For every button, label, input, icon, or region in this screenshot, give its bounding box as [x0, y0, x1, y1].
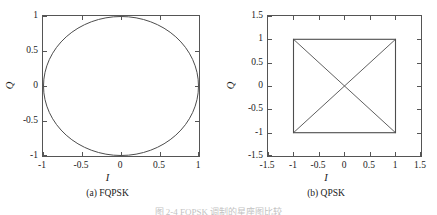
ytick-a-0	[43, 16, 47, 17]
xtick-top-b-3	[344, 16, 345, 20]
xtick-b-6	[420, 152, 421, 156]
xtick-top-b-1	[293, 16, 294, 20]
xticklabel-a-3: 0.5	[153, 160, 165, 170]
xticklabel-b-4: 0.5	[363, 160, 375, 170]
yticklabel-b-4: 0.5	[235, 57, 263, 67]
xticklabel-b-1: -1	[289, 160, 297, 170]
xtick-top-b-5	[395, 16, 396, 20]
panel-qpsk: -1.5 -1 -0.5 0 0.5 1 1.5 1.5 1 0.5 0 -0.…	[215, 0, 437, 202]
ytick-right-b-1	[417, 133, 421, 134]
xaxis-title-a: I	[0, 172, 215, 183]
yticklabel-b-3: 0	[235, 80, 263, 90]
xticklabel-b-2: -0.5	[310, 160, 325, 170]
xtick-a-4	[198, 152, 199, 156]
xticklabel-b-5: 1	[393, 160, 398, 170]
yticklabel-b-5: 1	[235, 33, 263, 43]
ytick-b-0	[268, 155, 272, 156]
xticklabel-a-1: -0.5	[73, 160, 88, 170]
xtick-a-3	[160, 152, 161, 156]
xtick-top-b-4	[370, 16, 371, 20]
fqpsk-circle-trace	[43, 16, 199, 156]
ytick-a-4	[43, 155, 47, 156]
xticklabel-a-2: 0	[118, 160, 123, 170]
qpsk-square-trace	[268, 16, 421, 156]
ytick-a-3	[43, 121, 47, 122]
yticklabel-b-1: -1	[235, 127, 263, 137]
panel-fqpsk: -1 -0.5 0 0.5 1 1 0.5 0 -0.5 -1 I Q (a) …	[0, 0, 215, 202]
subcaption-b: (b) QPSK	[215, 188, 437, 198]
subcaption-a: (a) FQPSK	[0, 188, 215, 198]
yticklabel-a-1: -0.5	[12, 115, 38, 125]
figure-panels: -1 -0.5 0 0.5 1 1 0.5 0 -0.5 -1 I Q (a) …	[0, 0, 437, 202]
yaxis-title-b: Q	[225, 73, 236, 99]
figure-caption: 图 2-4 FQPSK 调制的星座图比较	[0, 205, 437, 215]
ytick-right-a-2	[195, 86, 199, 87]
xtick-top-a-3	[160, 16, 161, 20]
yticklabel-b-0: -1.5	[235, 150, 263, 160]
ytick-b-3	[268, 86, 272, 87]
yticklabel-a-0: -1	[12, 150, 38, 160]
xticklabel-b-0: -1.5	[259, 160, 274, 170]
yticklabel-b-6: 1.5	[235, 10, 263, 20]
xtick-top-a-2	[121, 16, 122, 20]
xtick-a-2	[121, 152, 122, 156]
ytick-a-2	[43, 86, 47, 87]
yticklabel-b-2: -0.5	[235, 103, 263, 113]
xtick-b-3	[344, 152, 345, 156]
ytick-right-b-4	[417, 63, 421, 64]
xaxis-title-b: I	[215, 172, 437, 183]
xtick-b-5	[395, 152, 396, 156]
ytick-b-5	[268, 39, 272, 40]
xtick-a-1	[82, 152, 83, 156]
xticklabel-a-4: 1	[196, 160, 201, 170]
xtick-b-1	[293, 152, 294, 156]
plot-area-fqpsk	[42, 15, 200, 157]
ytick-b-1	[268, 133, 272, 134]
xtick-top-b-2	[319, 16, 320, 20]
plot-inner-fqpsk	[43, 16, 199, 156]
xticklabel-b-3: 0	[342, 160, 347, 170]
ytick-a-1	[43, 51, 47, 52]
ytick-right-a-1	[195, 51, 199, 52]
ytick-right-b-2	[417, 109, 421, 110]
ytick-b-4	[268, 63, 272, 64]
yticklabel-a-3: 0.5	[12, 45, 38, 55]
ytick-b-2	[268, 109, 272, 110]
yticklabel-a-2: 0	[12, 80, 38, 90]
ytick-b-6	[268, 16, 272, 17]
xticklabel-b-6: 1.5	[414, 160, 426, 170]
plot-inner-qpsk	[268, 16, 421, 156]
xticklabel-a-0: -1	[38, 160, 46, 170]
ytick-right-a-3	[195, 121, 199, 122]
xtick-b-2	[319, 152, 320, 156]
xtick-top-a-1	[82, 16, 83, 20]
xtick-b-4	[370, 152, 371, 156]
plot-area-qpsk	[267, 15, 422, 157]
ytick-right-b-3	[417, 86, 421, 87]
ytick-right-b-5	[417, 39, 421, 40]
yticklabel-a-4: 1	[12, 10, 38, 20]
yaxis-title-a: Q	[4, 73, 15, 99]
